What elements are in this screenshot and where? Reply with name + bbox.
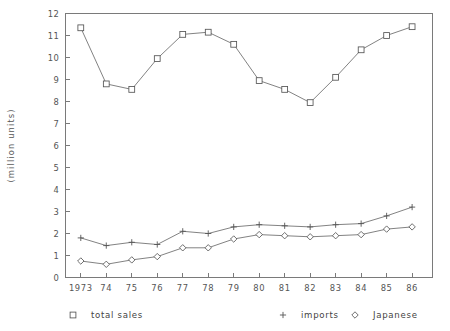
x-tick-label: 1973 — [69, 283, 93, 293]
y-tick-label: 10 — [48, 53, 60, 63]
marker-square — [333, 74, 339, 80]
marker-square — [358, 47, 364, 53]
legend-item-total-sales[interactable]: total sales — [70, 310, 143, 320]
marker-diamond — [129, 257, 135, 263]
marker-square — [205, 29, 211, 35]
x-tick-label: 74 — [100, 283, 112, 293]
marker-diamond — [332, 233, 338, 239]
x-axis: 197374757677787980818283848586 — [66, 273, 433, 293]
marker-square — [154, 56, 160, 62]
marker-square — [231, 41, 237, 47]
marker-square — [70, 312, 76, 318]
marker-diamond — [352, 312, 358, 318]
marker-square — [129, 87, 135, 93]
marker-square — [78, 25, 84, 31]
legend-item-imports[interactable]: imports — [280, 310, 339, 320]
x-tick-label: 81 — [279, 283, 291, 293]
marker-diamond — [256, 231, 262, 237]
y-axis: 0123456789101112 — [48, 9, 70, 283]
x-tick-label: 84 — [355, 283, 367, 293]
marker-square — [384, 33, 390, 39]
x-tick-label: 78 — [202, 283, 214, 293]
x-tick-label: 85 — [381, 283, 393, 293]
x-tick-label: 76 — [151, 283, 163, 293]
marker-square — [282, 87, 288, 93]
chart-legend: total salesimportsJapanese — [70, 310, 418, 320]
legend-label: total sales — [91, 310, 143, 320]
marker-diamond — [383, 226, 389, 232]
marker-diamond — [103, 261, 109, 267]
legend-label: imports — [301, 310, 339, 320]
marker-diamond — [154, 253, 160, 259]
y-tick-label: 1 — [54, 251, 60, 261]
legend-item-japanese[interactable]: Japanese — [352, 310, 418, 320]
marker-diamond — [231, 236, 237, 242]
legend-label: Japanese — [372, 310, 418, 320]
marker-diamond — [409, 224, 415, 230]
series-total-sales — [78, 24, 415, 106]
y-tick-label: 6 — [54, 141, 60, 151]
y-tick-label: 4 — [54, 185, 60, 195]
series-line — [81, 207, 412, 246]
x-tick-label: 79 — [228, 283, 240, 293]
marker-square — [409, 24, 415, 30]
marker-diamond — [281, 233, 287, 239]
marker-diamond — [180, 245, 186, 251]
line-chart: 0123456789101112 19737475767778798081828… — [0, 0, 450, 331]
chart-container: 0123456789101112 19737475767778798081828… — [0, 0, 450, 331]
y-axis-title-label: (million units) — [6, 108, 16, 182]
marker-square — [180, 32, 186, 38]
series-layer — [78, 24, 416, 268]
y-tick-label: 2 — [54, 229, 60, 239]
plot-frame — [66, 14, 433, 278]
marker-diamond — [78, 258, 84, 264]
marker-diamond — [358, 231, 364, 237]
x-tick-label: 83 — [330, 283, 342, 293]
y-axis-title: (million units) — [6, 108, 16, 182]
y-tick-label: 11 — [48, 31, 60, 41]
y-tick-label: 12 — [48, 9, 60, 19]
series-imports — [78, 204, 416, 249]
y-tick-label: 3 — [54, 207, 60, 217]
x-tick-label: 75 — [126, 283, 138, 293]
y-tick-label: 7 — [54, 119, 60, 129]
x-tick-label: 82 — [304, 283, 316, 293]
x-tick-label: 80 — [253, 283, 265, 293]
series-japanese — [78, 224, 416, 268]
marker-square — [103, 81, 109, 87]
y-tick-label: 8 — [54, 97, 60, 107]
marker-diamond — [205, 245, 211, 251]
marker-diamond — [307, 234, 313, 240]
plot-border — [66, 14, 433, 278]
marker-square — [256, 78, 262, 84]
marker-square — [307, 100, 313, 106]
y-tick-label: 5 — [54, 163, 60, 173]
y-tick-label: 0 — [54, 273, 60, 283]
y-tick-label: 9 — [54, 75, 60, 85]
x-tick-label: 86 — [406, 283, 418, 293]
x-tick-label: 77 — [177, 283, 189, 293]
